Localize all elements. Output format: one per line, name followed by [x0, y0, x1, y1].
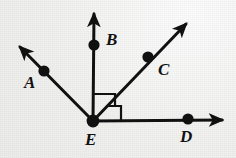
ray-ED: [93, 120, 222, 121]
point-label-D: D: [180, 128, 192, 145]
point-A: [38, 65, 49, 76]
point-D: [182, 113, 193, 124]
geometry-canvas: [0, 0, 236, 158]
geometry-figure: A B C D E: [0, 0, 236, 158]
point-E: [87, 115, 100, 128]
ray-EB: [93, 14, 94, 121]
point-label-A: A: [24, 74, 35, 91]
point-B: [88, 39, 99, 50]
point-label-B: B: [106, 31, 117, 48]
point-label-E: E: [85, 131, 96, 148]
points-group: [38, 39, 193, 127]
point-C: [142, 51, 153, 62]
right-angle-CED: [107, 106, 121, 120]
point-label-C: C: [158, 61, 169, 78]
